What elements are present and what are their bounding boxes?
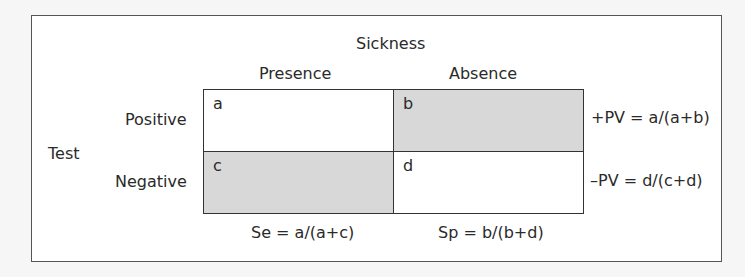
row-group-label: Test — [48, 144, 80, 164]
row-header-negative: Negative — [115, 172, 187, 192]
cell-d-label: d — [403, 156, 413, 176]
specificity-formula: Sp = b/(b+d) — [438, 223, 544, 243]
column-header-presence: Presence — [259, 64, 331, 84]
column-group-label: Sickness — [356, 34, 425, 54]
sensitivity-formula: Se = a/(a+c) — [251, 223, 354, 243]
cell-c-label: c — [213, 156, 222, 176]
npv-formula: –PV = d/(c+d) — [590, 171, 703, 191]
cell-b-label: b — [403, 94, 413, 114]
cell-d: d — [393, 151, 584, 214]
cell-b: b — [393, 89, 584, 152]
cell-c: c — [203, 151, 394, 214]
ppv-formula: +PV = a/(a+b) — [591, 108, 710, 128]
cell-a: a — [203, 89, 394, 152]
row-header-positive: Positive — [125, 110, 187, 130]
cell-a-label: a — [213, 94, 223, 114]
column-header-absence: Absence — [449, 64, 517, 84]
